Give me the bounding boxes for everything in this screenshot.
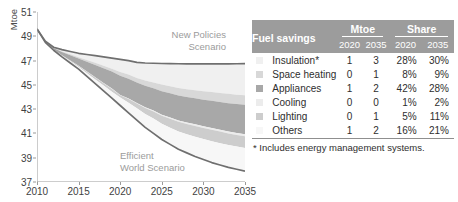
cell-mtoe-2020: 1 bbox=[336, 53, 363, 67]
legend-swatch-icon bbox=[256, 85, 263, 92]
legend-swatch-cell bbox=[252, 53, 270, 67]
new-policies-scenario-label: New Policies Scenario bbox=[142, 29, 226, 52]
x-tick-mark-2035 bbox=[245, 182, 246, 185]
legend-swatch-icon bbox=[256, 113, 263, 120]
y-tick-label-43: 43 bbox=[21, 104, 32, 115]
table-row: Lighting015%11% bbox=[252, 109, 454, 123]
table-body: Insulation*1328%30%Space heating018%9%Ap… bbox=[252, 53, 454, 139]
table-row: Others1216%21% bbox=[252, 123, 454, 139]
header-group-share: Share bbox=[389, 20, 454, 38]
header-group-mtoe-label: Mtoe bbox=[342, 23, 383, 37]
y-tick-mark-45 bbox=[33, 84, 36, 85]
cell-mtoe-2020: 1 bbox=[336, 81, 363, 95]
cell-share-2035: 9% bbox=[422, 67, 454, 81]
cell-share-2035: 2% bbox=[422, 95, 454, 109]
legend-swatch-icon bbox=[256, 127, 263, 134]
y-tick-label-39: 39 bbox=[21, 152, 32, 163]
x-tick-mark-2015 bbox=[79, 182, 80, 185]
cell-mtoe-2035: 0 bbox=[363, 95, 390, 109]
cell-share-2020: 5% bbox=[389, 109, 421, 123]
fuel-savings-table: Fuel savings Mtoe Share 2020 2035 2020 2… bbox=[252, 20, 454, 139]
cell-share-2035: 21% bbox=[422, 123, 454, 139]
cell-mtoe-2035: 3 bbox=[363, 53, 390, 67]
table-row: Appliances1242%28% bbox=[252, 81, 454, 95]
x-tick-label-2035: 2035 bbox=[234, 186, 256, 197]
header-mtoe-2020: 2020 bbox=[336, 38, 363, 53]
table-row: Space heating018%9% bbox=[252, 67, 454, 81]
y-axis-ticks: 5149474543413937 bbox=[13, 0, 36, 202]
x-tick-label-2020: 2020 bbox=[109, 186, 131, 197]
row-category-label: Others bbox=[270, 123, 336, 139]
cell-share-2035: 11% bbox=[422, 109, 454, 123]
header-fuel-savings: Fuel savings bbox=[252, 20, 336, 53]
table-header-group-row: Fuel savings Mtoe Share bbox=[252, 20, 454, 38]
y-tick-mark-49 bbox=[33, 36, 36, 37]
energy-savings-chart: Mtoe 5149474543413937 201020152020202520… bbox=[0, 0, 250, 202]
legend-swatch-icon bbox=[256, 57, 263, 64]
cell-mtoe-2020: 0 bbox=[336, 67, 363, 81]
header-share-2020: 2020 bbox=[389, 38, 421, 53]
y-tick-mark-47 bbox=[33, 60, 36, 61]
y-tick-mark-41 bbox=[33, 133, 36, 134]
y-tick-label-45: 45 bbox=[21, 79, 32, 90]
cell-share-2020: 8% bbox=[389, 67, 421, 81]
cell-share-2020: 1% bbox=[389, 95, 421, 109]
x-axis-ticks: 201020152020202520302035 bbox=[37, 182, 252, 202]
y-tick-mark-43 bbox=[33, 109, 36, 110]
legend-swatch-icon bbox=[256, 99, 263, 106]
x-tick-label-2015: 2015 bbox=[67, 186, 89, 197]
cell-share-2020: 16% bbox=[389, 123, 421, 139]
x-tick-mark-2025 bbox=[162, 182, 163, 185]
row-category-label: Cooling bbox=[270, 95, 336, 109]
y-tick-label-49: 49 bbox=[21, 31, 32, 42]
x-tick-mark-2030 bbox=[203, 182, 204, 185]
legend-swatch-cell bbox=[252, 95, 270, 109]
legend-swatch-cell bbox=[252, 109, 270, 123]
cell-share-2020: 42% bbox=[389, 81, 421, 95]
y-tick-mark-39 bbox=[33, 157, 36, 158]
table-head: Fuel savings Mtoe Share 2020 2035 2020 2… bbox=[252, 20, 454, 53]
cell-mtoe-2035: 1 bbox=[363, 109, 390, 123]
cell-mtoe-2035: 1 bbox=[363, 67, 390, 81]
y-tick-label-41: 41 bbox=[21, 128, 32, 139]
cell-mtoe-2035: 2 bbox=[363, 81, 390, 95]
x-tick-label-2025: 2025 bbox=[151, 186, 173, 197]
header-mtoe-2035: 2035 bbox=[363, 38, 390, 53]
cell-share-2035: 28% bbox=[422, 81, 454, 95]
cell-mtoe-2020: 0 bbox=[336, 109, 363, 123]
table-row: Insulation*1328%30% bbox=[252, 53, 454, 67]
y-tick-label-51: 51 bbox=[21, 7, 32, 18]
fuel-savings-table-panel: Fuel savings Mtoe Share 2020 2035 2020 2… bbox=[252, 20, 454, 153]
cell-mtoe-2020: 0 bbox=[336, 95, 363, 109]
header-group-share-label: Share bbox=[395, 23, 448, 37]
x-tick-mark-2020 bbox=[120, 182, 121, 185]
x-tick-mark-2010 bbox=[37, 182, 38, 185]
row-category-label: Appliances bbox=[270, 81, 336, 95]
figure-root: Mtoe 5149474543413937 201020152020202520… bbox=[0, 0, 458, 202]
legend-swatch-cell bbox=[252, 67, 270, 81]
efficient-world-scenario-label: Efficient World Scenario bbox=[120, 150, 220, 173]
x-tick-label-2010: 2010 bbox=[26, 186, 48, 197]
cell-mtoe-2020: 1 bbox=[336, 123, 363, 139]
y-tick-label-47: 47 bbox=[21, 55, 32, 66]
row-category-label: Insulation* bbox=[270, 53, 336, 67]
cell-share-2035: 30% bbox=[422, 53, 454, 67]
table-footnote: * Includes energy management systems. bbox=[252, 142, 454, 153]
legend-swatch-cell bbox=[252, 123, 270, 139]
cell-share-2020: 28% bbox=[389, 53, 421, 67]
legend-swatch-cell bbox=[252, 81, 270, 95]
table-row: Cooling001%2% bbox=[252, 95, 454, 109]
cell-mtoe-2035: 2 bbox=[363, 123, 390, 139]
row-category-label: Lighting bbox=[270, 109, 336, 123]
header-group-mtoe: Mtoe bbox=[336, 20, 389, 38]
row-category-label: Space heating bbox=[270, 67, 336, 81]
legend-swatch-icon bbox=[256, 71, 263, 78]
y-tick-mark-51 bbox=[33, 12, 36, 13]
y-tick-mark-37 bbox=[33, 182, 36, 183]
x-tick-label-2030: 2030 bbox=[192, 186, 214, 197]
header-share-2035: 2035 bbox=[422, 38, 454, 53]
